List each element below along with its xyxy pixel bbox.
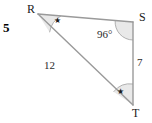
problem-number: 5 xyxy=(3,21,10,34)
angle-fill-s xyxy=(115,21,133,41)
vertex-label-r: R xyxy=(27,3,35,15)
vertex-label-t: T xyxy=(132,107,139,119)
vertex-label-s: S xyxy=(139,11,146,23)
side-length-label-st: 7 xyxy=(137,57,143,68)
geometry-problem-figure: 5 R S T 96° 12 7 ★ ★ xyxy=(0,0,152,123)
triangle-diagram xyxy=(0,0,152,123)
angle-congruence-star-t: ★ xyxy=(117,88,124,96)
side-length-label-rt: 12 xyxy=(44,60,55,71)
angle-measure-label-s: 96° xyxy=(97,29,112,40)
angle-congruence-star-r: ★ xyxy=(54,17,61,25)
